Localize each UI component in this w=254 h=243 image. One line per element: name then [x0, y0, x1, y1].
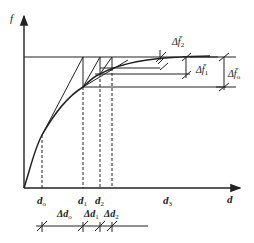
delta-f2-label: Δf̄2	[171, 36, 185, 49]
delta-f1-label: Δf̄1	[195, 64, 209, 77]
tick-d2: d2	[95, 194, 105, 208]
delta-d2-label: Δd2	[103, 208, 119, 221]
diagram-svg: f d do d1 d2 d3 Δdo Δd1 Δd2 Δf̄2 Δf̄1 Δf…	[0, 0, 254, 243]
tick-d0: do	[37, 194, 47, 208]
secant-0	[42, 57, 83, 135]
force-curve	[24, 56, 210, 188]
tick-d3: d3	[163, 194, 173, 208]
x-axis-label: d	[227, 193, 233, 205]
tick-d1: d1	[78, 194, 88, 208]
delta-f0-label: Δf̄o	[227, 68, 241, 81]
secant-1	[83, 57, 100, 87]
delta-d0-label: Δdo	[56, 208, 72, 221]
y-axis-label: f	[10, 12, 15, 24]
delta-d1-label: Δd1	[83, 208, 99, 221]
force-displacement-diagram: f d do d1 d2 d3 Δdo Δd1 Δd2 Δf̄2 Δf̄1 Δf…	[0, 0, 254, 243]
